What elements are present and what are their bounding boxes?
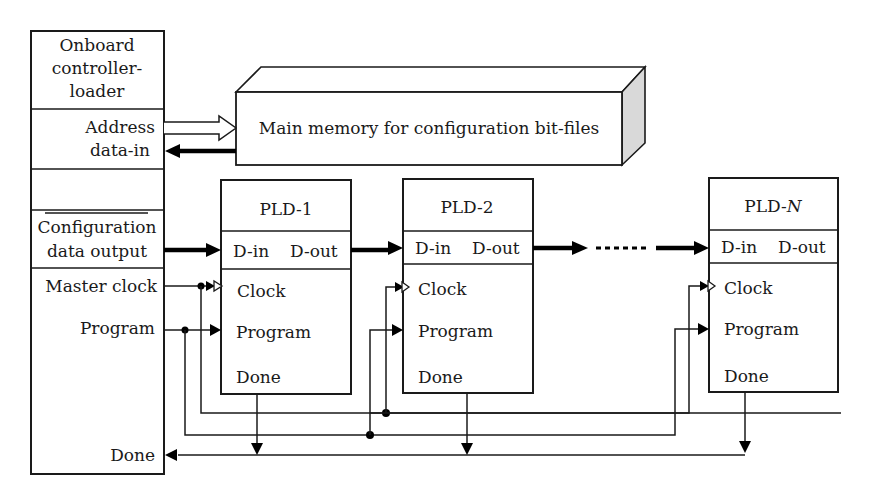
config-output-line-1: Configuration — [37, 217, 156, 237]
pld-n-program-label: Program — [724, 319, 799, 339]
pld-2-dout-label: D-out — [472, 238, 520, 258]
main-memory-block: Main memory for configuration bit-files — [236, 67, 645, 165]
controller-title-line-2: controller- — [52, 58, 143, 78]
master-clock-label: Master clock — [45, 276, 157, 296]
done-label: Done — [110, 445, 155, 465]
program-label: Program — [80, 318, 155, 338]
arrowhead-icon — [388, 241, 403, 255]
arrowhead-icon — [206, 243, 221, 257]
memory-label: Main memory for configuration bit-files — [259, 118, 600, 138]
pld-1-clock-label: Clock — [237, 281, 286, 301]
pld-n-clock-label: Clock — [724, 278, 773, 298]
controller-title-line-3: loader — [70, 81, 126, 101]
arrowhead-icon — [739, 441, 751, 453]
pld-2-clock-label: Clock — [418, 279, 467, 299]
arrowhead-icon — [694, 241, 709, 255]
pld-2-din-label: D-in — [415, 238, 451, 258]
pld-1-din-label: D-in — [233, 241, 269, 261]
pld-2-title: PLD-2 — [440, 197, 493, 217]
pld-1-program-label: Program — [236, 322, 311, 342]
pld-1-title: PLD-1 — [259, 199, 312, 219]
arrowhead-icon — [461, 443, 473, 455]
pld-2-program-label: Program — [418, 321, 493, 341]
controller-title-line-1: Onboard — [59, 35, 134, 55]
pld-n-dout-label: D-out — [778, 237, 826, 257]
pld-n-din-label: D-in — [721, 237, 757, 257]
pld-1-dout-label: D-out — [290, 241, 338, 261]
done-wiring — [165, 392, 751, 461]
arrowhead-icon — [698, 323, 709, 335]
pld-1-done-label: Done — [236, 367, 281, 387]
pld-n-title: PLD-N — [744, 196, 802, 216]
arrowhead-icon — [392, 324, 403, 336]
data-in-label: data-in — [90, 140, 150, 160]
data-in-arrowhead-icon — [165, 144, 180, 158]
memory-top-face — [236, 67, 645, 92]
pld-2-block: PLD-2 D-in D-out Clock Program Done — [403, 179, 533, 393]
controller-loader-block: Onboard controller- loader Address data-… — [31, 31, 164, 474]
pld-1-block: PLD-1 D-in D-out Clock Program Done — [221, 180, 351, 394]
arrowhead-icon — [572, 241, 588, 255]
arrowhead-icon — [251, 443, 263, 455]
arrowhead-icon — [210, 324, 221, 336]
pld-configuration-diagram: Onboard controller- loader Address data-… — [0, 0, 873, 500]
address-arrow-icon — [164, 116, 236, 140]
pld-n-done-label: Done — [724, 366, 769, 386]
address-label: Address — [84, 117, 155, 137]
pld-n-block: PLD-N D-in D-out Clock Program Done — [709, 178, 838, 392]
config-output-line-2: data output — [47, 241, 147, 261]
done-arrowhead-icon — [165, 449, 177, 461]
pld-2-done-label: Done — [418, 367, 463, 387]
